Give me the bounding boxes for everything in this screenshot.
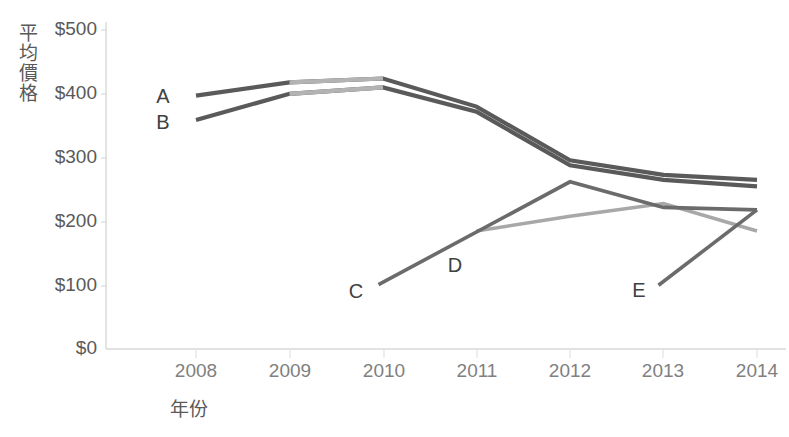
x-tick-label-2009: 2009 [269, 360, 311, 381]
series-line-a-light-segment [290, 78, 384, 82]
series-inline-labels: A B C D E [156, 85, 645, 302]
series-line-a [196, 79, 757, 180]
x-tick-label-2014: 2014 [736, 360, 779, 381]
y-tick-label-100: $100 [55, 274, 97, 295]
line-chart-plot: $500 $400 $300 $200 $100 $0 [0, 0, 789, 437]
y-tick-label-500: $500 [55, 18, 97, 39]
series-label-e: E [632, 279, 645, 301]
series-label-a: A [156, 85, 170, 107]
series-lines-layer [196, 78, 757, 285]
series-line-b-light-segment [290, 87, 384, 93]
x-tick-label-2013: 2013 [642, 360, 684, 381]
x-axis-tick-labels: 2008 2009 2010 2011 2012 2013 2014 [175, 360, 779, 381]
series-label-b: B [156, 111, 169, 133]
y-tick-label-300: $300 [55, 146, 97, 167]
series-line-b [196, 87, 757, 186]
y-axis-tick-labels: $500 $400 $300 $200 $100 $0 [55, 18, 97, 358]
y-tick-label-0: $0 [76, 337, 97, 358]
series-label-c: C [349, 280, 363, 302]
series-label-d: D [448, 254, 462, 276]
x-tick-label-2008: 2008 [175, 360, 217, 381]
y-tick-label-400: $400 [55, 82, 97, 103]
y-tick-label-200: $200 [55, 210, 97, 231]
x-axis-ticks [196, 349, 757, 358]
x-tick-label-2011: 2011 [457, 360, 498, 381]
chart-container: 平 均 價 格 年份 $500 $400 $300 $200 $100 $0 [0, 0, 789, 437]
x-tick-label-2012: 2012 [549, 360, 591, 381]
series-line-e [659, 210, 758, 285]
x-tick-label-2010: 2010 [363, 360, 405, 381]
series-line-c [379, 182, 758, 285]
